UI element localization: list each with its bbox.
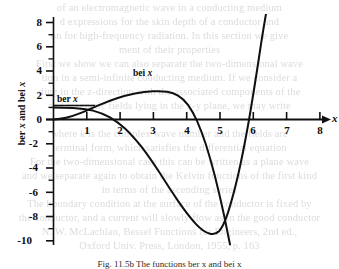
curve-bei-x (54, 91, 231, 244)
x-tick-label-1: 1 (76, 124, 98, 136)
y-axis-title-var-2: x (16, 82, 27, 87)
x-axis-arrowhead (322, 116, 331, 124)
x-tick-label-3: 3 (142, 124, 164, 136)
x-major-ticks (87, 112, 320, 120)
y-axis-title-part-ber: ber (16, 131, 27, 145)
y-axis-title-part-and: and bei (16, 87, 27, 123)
y-axis-title: ber x and bei x (16, 54, 27, 174)
x-tick-label-4: 4 (176, 124, 198, 136)
curve-label-ber-variable: x (73, 94, 78, 104)
x-axis-name: x (332, 112, 338, 124)
x-tick-label-5: 5 (209, 124, 231, 136)
y-tick-label-neg10: -10 (6, 234, 32, 246)
curve-label-ber-x: ber x (57, 94, 78, 104)
y-tick-label-neg8: -8 (12, 210, 38, 222)
curve-ber-x (54, 11, 267, 234)
curve-label-bei-variable: x (148, 68, 153, 78)
x-tick-label-2: 2 (109, 124, 131, 136)
x-tick-label-8: 8 (309, 124, 331, 136)
curve-label-ber-text: ber (57, 94, 73, 104)
curve-label-bei-text: bei (133, 68, 148, 78)
y-tick-label-neg6: -6 (12, 186, 38, 198)
y-axis-title-var-1: x (16, 123, 27, 128)
figure-caption-text: Fig. 11.5b The functions ber x and bei x (98, 259, 242, 269)
curve-label-bei-x: bei x (133, 68, 152, 78)
x-tick-label-7: 7 (276, 124, 298, 136)
x-tick-label-6: 6 (242, 124, 264, 136)
figure-caption: Fig. 11.5b The functions ber x and bei x (0, 259, 339, 269)
y-tick-label-6: 6 (16, 40, 42, 52)
y-tick-label-8: 8 (16, 16, 42, 28)
